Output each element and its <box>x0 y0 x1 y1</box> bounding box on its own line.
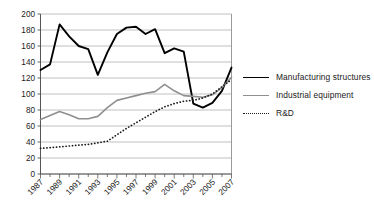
svg-text:120: 120 <box>21 74 35 83</box>
x-axis-ticks <box>41 174 232 179</box>
legend-dotted-swatch-icon <box>243 109 269 118</box>
svg-text:60: 60 <box>26 122 36 131</box>
gridlines <box>41 14 232 174</box>
svg-text:2001: 2001 <box>160 177 180 197</box>
legend-item-rd: R&D <box>243 109 371 118</box>
y-axis-tick-labels: 020406080100120140160180200 <box>21 10 35 179</box>
legend-item-label: Industrial equipment <box>276 91 353 100</box>
legend-line-swatch-icon <box>243 91 269 100</box>
svg-text:2003: 2003 <box>179 177 199 197</box>
svg-text:1995: 1995 <box>102 177 122 197</box>
svg-text:1993: 1993 <box>83 177 103 197</box>
svg-text:1989: 1989 <box>45 177 65 197</box>
svg-text:180: 180 <box>21 26 35 35</box>
svg-text:20: 20 <box>26 154 36 163</box>
legend-item-industrial-equipment: Industrial equipment <box>243 91 371 100</box>
legend-item-label: R&D <box>276 109 294 118</box>
data-series-lines <box>41 24 232 148</box>
svg-text:2007: 2007 <box>217 177 237 197</box>
svg-text:1991: 1991 <box>64 177 84 197</box>
legend-line-swatch-icon <box>243 73 269 82</box>
svg-text:200: 200 <box>21 10 35 19</box>
svg-text:160: 160 <box>21 42 35 51</box>
svg-text:100: 100 <box>21 90 35 99</box>
svg-text:140: 140 <box>21 58 35 67</box>
x-axis-tick-labels: 1987198919911993199519971999200120032005… <box>26 177 237 197</box>
svg-text:0: 0 <box>30 170 35 179</box>
svg-text:40: 40 <box>26 138 36 147</box>
chart-legend: Manufacturing structures Industrial equi… <box>243 73 371 118</box>
svg-text:1997: 1997 <box>121 177 141 197</box>
legend-item-manufacturing-structures: Manufacturing structures <box>243 73 371 82</box>
svg-text:1987: 1987 <box>26 177 46 197</box>
svg-text:2005: 2005 <box>198 177 218 197</box>
legend-item-label: Manufacturing structures <box>276 73 371 82</box>
chart-screenshot: 020406080100120140160180200 198719891991… <box>0 0 374 212</box>
svg-text:80: 80 <box>26 106 36 115</box>
svg-text:1999: 1999 <box>140 177 160 197</box>
